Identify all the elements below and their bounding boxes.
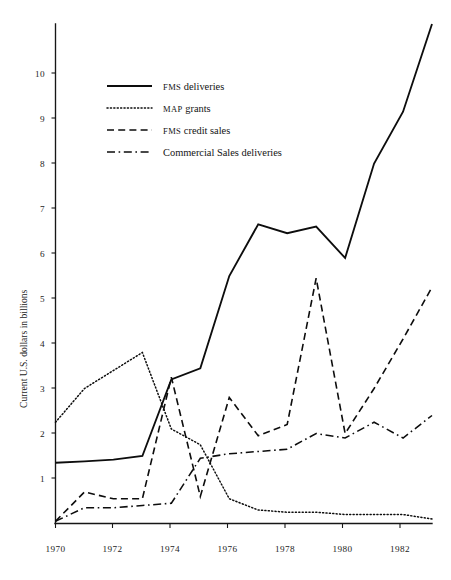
y-tick-label: 8 xyxy=(40,159,45,169)
legend-label-fms-credit-sales: FMS credit sales xyxy=(163,125,230,136)
x-tick-labels: 1970 1972 1974 1976 1978 1980 1982 xyxy=(46,544,410,554)
y-tick-label: 9 xyxy=(40,114,45,124)
legend-rest: deliveries xyxy=(181,81,224,92)
y-tick-label: 10 xyxy=(35,69,45,79)
x-tick-label: 1970 xyxy=(46,544,66,554)
x-tick-label: 1972 xyxy=(103,544,123,554)
x-tick-label: 1978 xyxy=(275,544,295,554)
legend-label-map-grants: MAP grants xyxy=(163,103,211,114)
series-fms-credit-sales xyxy=(56,278,433,521)
y-tick-label: 4 xyxy=(40,339,45,349)
x-tick-label: 1982 xyxy=(390,544,410,554)
legend-smallcaps: MAP xyxy=(163,104,183,114)
line-chart: 10 9 8 7 6 5 4 3 2 1 Current U.S. dollar… xyxy=(0,0,451,580)
y-tick-label: 1 xyxy=(40,474,45,484)
chart-axes xyxy=(55,24,432,524)
y-tick-label: 6 xyxy=(40,249,45,259)
series-fms-deliveries xyxy=(56,24,433,463)
y-tick-labels: 10 9 8 7 6 5 4 3 2 1 xyxy=(35,69,45,484)
legend-rest: Commercial Sales deliveries xyxy=(163,147,282,158)
legend-label-fms-deliveries: FMS deliveries xyxy=(163,81,224,92)
series-map-grants xyxy=(56,353,433,520)
y-axis-label: Current U.S. dollars in billions xyxy=(18,289,29,408)
legend-rest: credit sales xyxy=(181,125,230,136)
series-commercial-sales-deliveries xyxy=(56,416,433,522)
chart-legend: FMS deliveries MAP grants FMS credit sal… xyxy=(107,81,282,158)
legend-rest: grants xyxy=(183,103,211,114)
data-series-group xyxy=(56,24,433,521)
y-tick-label: 3 xyxy=(40,384,45,394)
y-tick-label: 5 xyxy=(40,294,45,304)
legend-label-commercial-sales-deliveries: Commercial Sales deliveries xyxy=(163,147,282,158)
legend-smallcaps: FMS xyxy=(163,82,181,92)
x-tick-label: 1980 xyxy=(333,544,353,554)
x-tick-label: 1974 xyxy=(160,544,180,554)
y-tick-label: 7 xyxy=(40,204,45,214)
y-tick-label: 2 xyxy=(40,429,45,439)
x-tick-label: 1976 xyxy=(218,544,238,554)
legend-smallcaps: FMS xyxy=(163,126,181,136)
